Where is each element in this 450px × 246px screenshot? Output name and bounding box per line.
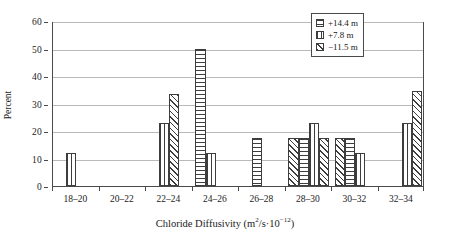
y-tick-mark xyxy=(44,105,48,106)
x-axis-title-prefix: Chloride Diffusivity (m xyxy=(156,218,256,229)
x-axis-title-mid: /s xyxy=(259,218,266,229)
x-tick-mark xyxy=(238,187,239,191)
x-tick-label: 22–24 xyxy=(156,194,180,204)
x-axis-title-exponent-power: −12 xyxy=(280,216,291,224)
bar xyxy=(335,138,345,186)
x-axis: 18–2020–2222–2424–2626–2828–3030–3232–34 xyxy=(52,187,424,213)
x-tick-label: 30–32 xyxy=(342,194,366,204)
bar xyxy=(195,49,205,187)
plot-area xyxy=(52,22,424,187)
legend-item: +14.4 m xyxy=(316,17,358,29)
bar xyxy=(66,153,76,186)
x-tick-label: 32–34 xyxy=(389,194,413,204)
y-tick-label: 20 xyxy=(32,127,42,137)
bar-chart: Percent 0102030405060 18–2020–2222–2424–… xyxy=(0,0,450,246)
x-tick-mark xyxy=(331,187,332,191)
x-axis-title-suffix: ) xyxy=(291,218,295,229)
x-tick-mark xyxy=(192,187,193,191)
x-tick-mark xyxy=(52,187,53,191)
x-tick-mark xyxy=(285,187,286,191)
bar xyxy=(288,138,298,186)
x-tick-label: 26–28 xyxy=(249,194,273,204)
bars-layer xyxy=(53,23,423,186)
y-tick-label: 30 xyxy=(32,100,42,110)
bar xyxy=(402,123,412,186)
y-tick-mark xyxy=(44,187,48,188)
legend: +14.4 m+7.8 m−11.5 m xyxy=(311,13,364,57)
bar xyxy=(299,138,309,186)
y-tick-mark xyxy=(44,160,48,161)
y-tick-label: 40 xyxy=(32,72,42,82)
x-tick-label: 28–30 xyxy=(296,194,320,204)
bar xyxy=(309,123,319,186)
bar xyxy=(412,91,422,186)
y-tick-label: 10 xyxy=(32,155,42,165)
bar xyxy=(159,123,169,186)
y-tick-mark xyxy=(44,22,48,23)
bar xyxy=(355,153,365,186)
legend-label: +7.8 m xyxy=(328,31,354,40)
legend-swatch-icon xyxy=(316,31,324,39)
x-tick-mark xyxy=(145,187,146,191)
x-tick-mark xyxy=(378,187,379,191)
y-tick-label: 50 xyxy=(32,45,42,55)
y-tick-mark xyxy=(44,132,48,133)
bar xyxy=(345,138,355,186)
legend-item: +7.8 m xyxy=(316,29,358,41)
y-tick-mark xyxy=(44,77,48,78)
bar xyxy=(252,138,262,186)
bar xyxy=(206,153,216,186)
x-tick-mark xyxy=(423,187,424,191)
legend-swatch-icon xyxy=(316,19,324,27)
y-tick-label: 0 xyxy=(37,182,42,192)
y-tick-mark xyxy=(44,50,48,51)
legend-swatch-icon xyxy=(316,43,324,51)
x-tick-label: 20–22 xyxy=(110,194,134,204)
bar xyxy=(319,138,329,186)
y-axis-labels: 0102030405060 xyxy=(0,22,48,187)
x-tick-label: 24–26 xyxy=(203,194,227,204)
x-axis-title-ten: 10 xyxy=(269,218,280,229)
x-axis-title: Chloride Diffusivity (m2/s·10−12) xyxy=(0,216,450,229)
x-tick-mark xyxy=(99,187,100,191)
legend-item: −11.5 m xyxy=(316,41,358,53)
x-tick-label: 18–20 xyxy=(63,194,87,204)
legend-label: +14.4 m xyxy=(328,19,358,28)
legend-label: −11.5 m xyxy=(328,43,358,52)
y-tick-label: 60 xyxy=(32,17,42,27)
bar xyxy=(169,94,179,186)
